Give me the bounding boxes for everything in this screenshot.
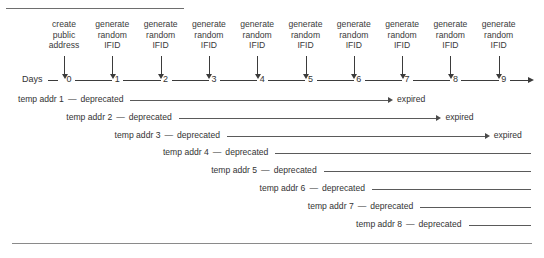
axis-tick-3: 3 <box>211 74 216 84</box>
axis-segment <box>413 80 450 81</box>
axis-label-days: Days <box>22 74 43 84</box>
label-dash: — <box>406 219 415 229</box>
lifetime-line <box>469 225 531 226</box>
list-item: temp addr 5—deprecated <box>211 165 316 175</box>
axis-segment <box>461 80 498 81</box>
lifetime-line <box>372 189 531 190</box>
lifetime-line <box>179 118 437 119</box>
temp-addr-state: deprecated <box>322 183 365 193</box>
label-dash: — <box>261 165 270 175</box>
expired-label: expired <box>494 130 522 140</box>
list-item: temp addr 7—deprecated <box>308 201 413 211</box>
list-item: temp addr 8—deprecated <box>356 219 461 229</box>
list-item: temp addr 1—deprecated <box>18 94 123 104</box>
list-item: temp addr 6—deprecated <box>260 183 365 193</box>
lifetime-line <box>227 136 485 137</box>
label-dash: — <box>68 94 77 104</box>
axis-segment <box>317 80 354 81</box>
axis-tick-0: 0 <box>67 74 72 84</box>
lifetime-arrowhead-icon <box>485 133 490 139</box>
axis-tail-segment <box>510 80 528 81</box>
event-down-arrow-icon <box>402 56 403 75</box>
axis-tick-7: 7 <box>405 74 410 84</box>
temp-addr-state: deprecated <box>370 201 413 211</box>
event-down-arrow-icon <box>257 56 258 75</box>
expired-label: expired <box>397 94 425 104</box>
temp-addr-state: deprecated <box>419 219 462 229</box>
event-down-arrow-icon <box>112 56 113 75</box>
axis-segment <box>365 80 402 81</box>
axis-tick-6: 6 <box>356 74 361 84</box>
event-down-arrow-icon <box>64 56 65 75</box>
axis-segment <box>172 80 209 81</box>
temp-addr-label: temp addr 8 <box>356 219 402 229</box>
lifetime-arrowhead-icon <box>436 115 441 121</box>
event-down-arrow-icon <box>499 56 500 75</box>
temp-addr-state: deprecated <box>225 147 268 157</box>
event-down-arrow-icon <box>354 56 355 75</box>
event-down-arrow-icon <box>209 56 210 75</box>
axis-tick-4: 4 <box>260 74 265 84</box>
list-item: temp addr 3—deprecated <box>115 130 220 140</box>
axis-lead-segment <box>48 80 58 81</box>
list-item: temp addr 4—deprecated <box>163 147 268 157</box>
lifetime-line <box>324 171 531 172</box>
label-dash: — <box>116 112 125 122</box>
temp-addr-label: temp addr 5 <box>211 165 257 175</box>
event-down-arrow-icon <box>450 56 451 75</box>
axis-segment <box>123 80 160 81</box>
temp-addr-label: temp addr 2 <box>66 112 112 122</box>
axis-tick-5: 5 <box>308 74 313 84</box>
temp-addr-label: temp addr 7 <box>308 201 354 211</box>
axis-tick-9: 9 <box>501 74 506 84</box>
label-dash: — <box>309 183 318 193</box>
temp-addr-label: temp addr 4 <box>163 147 209 157</box>
axis-segment <box>75 80 112 81</box>
temp-addr-state: deprecated <box>129 112 172 122</box>
header-divider <box>6 8 184 9</box>
list-item: temp addr 2—deprecated <box>66 112 171 122</box>
temp-addr-state: deprecated <box>177 130 220 140</box>
temp-addr-label: temp addr 3 <box>115 130 161 140</box>
footer-divider <box>12 243 532 244</box>
event-down-arrow-icon <box>161 56 162 75</box>
temp-addr-state: deprecated <box>274 165 317 175</box>
lifetime-line <box>130 100 388 101</box>
event-caption: generate random IFID <box>468 19 530 50</box>
lifetime-line <box>420 207 531 208</box>
axis-tick-8: 8 <box>453 74 458 84</box>
axis-tick-1: 1 <box>115 74 120 84</box>
temp-addr-label: temp addr 1 <box>18 94 64 104</box>
temp-addr-label: temp addr 6 <box>260 183 306 193</box>
figure-canvas: create public addressgenerate random IFI… <box>0 0 544 258</box>
label-dash: — <box>358 201 367 211</box>
axis-segment <box>268 80 305 81</box>
label-dash: — <box>213 147 222 157</box>
lifetime-line <box>275 153 531 154</box>
temp-addr-state: deprecated <box>80 94 123 104</box>
expired-label: expired <box>445 112 473 122</box>
axis-arrowhead-icon <box>528 77 534 83</box>
axis-tick-2: 2 <box>163 74 168 84</box>
label-dash: — <box>164 130 173 140</box>
lifetime-arrowhead-icon <box>388 97 393 103</box>
event-down-arrow-icon <box>306 56 307 75</box>
axis-segment <box>220 80 257 81</box>
